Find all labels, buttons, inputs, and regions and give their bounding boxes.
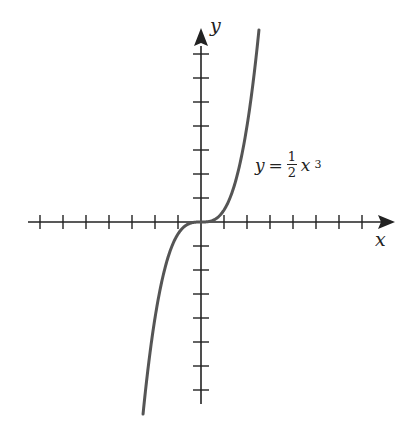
equation-lhs: y (255, 155, 265, 175)
axes (28, 46, 382, 404)
cubic-function-plot (0, 0, 419, 439)
equation-equals: = (269, 155, 283, 175)
equation-exponent: 3 (314, 158, 321, 171)
equation-label: y = 1 2 x3 (255, 150, 321, 179)
fraction-numerator: 1 (288, 150, 296, 163)
fraction-denominator: 2 (288, 166, 296, 179)
equation-fraction: 1 2 (287, 150, 297, 179)
y-axis-label: y (210, 14, 221, 36)
x-axis-label: x (375, 228, 386, 250)
y-axis-arrow-icon (194, 28, 208, 46)
equation-variable: x (301, 155, 311, 175)
